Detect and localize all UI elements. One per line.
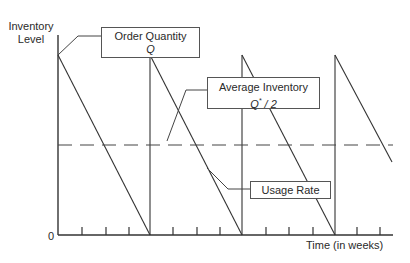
order-quantity-symbol: Q (102, 43, 199, 56)
y-axis-label: Inventory Level (6, 20, 56, 46)
y-axis-label-line2: Level (6, 33, 56, 46)
inventory-diagram (0, 0, 410, 263)
formula-var: Q (250, 98, 259, 110)
order-quantity-leader (58, 36, 101, 55)
average-inventory-formula: Q* / 2 (208, 94, 319, 111)
average-inventory-text: Average Inventory (208, 81, 319, 94)
x-axis-label: Time (in weeks) (306, 239, 383, 252)
average-inventory-leader (167, 90, 207, 141)
order-quantity-text: Order Quantity (102, 30, 199, 43)
y-axis-label-line1: Inventory (6, 20, 56, 33)
origin-label: 0 (48, 230, 54, 243)
usage-rate-text: Usage Rate (251, 184, 330, 197)
order-quantity-callout: Order Quantity Q (101, 27, 200, 58)
formula-rest: / 2 (262, 98, 277, 110)
usage-rate-callout: Usage Rate (250, 181, 331, 199)
average-inventory-callout: Average Inventory Q* / 2 (207, 77, 320, 109)
